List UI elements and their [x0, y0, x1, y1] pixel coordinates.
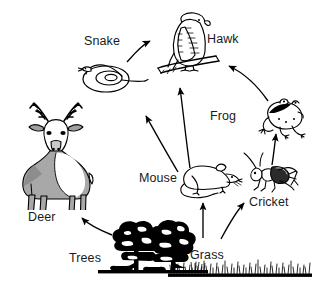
label-trees: Trees [69, 252, 101, 265]
arrow-grass-to-cricket [221, 203, 244, 239]
deer-icon [10, 95, 102, 210]
label-cricket: Cricket [249, 196, 289, 209]
label-mouse: Mouse [139, 172, 177, 185]
node-mouse[interactable] [178, 160, 244, 202]
cricket-icon [236, 152, 304, 196]
node-cricket[interactable] [236, 152, 304, 196]
arrow-mouse-to-hawk [180, 88, 190, 168]
node-snake[interactable] [78, 52, 150, 98]
node-frog[interactable] [252, 96, 310, 140]
food-web-diagram: Deer Snake [0, 0, 312, 297]
arrow-mouse-to-snake [146, 116, 178, 172]
label-hawk: Hawk [207, 33, 239, 46]
label-frog: Frog [210, 110, 236, 123]
label-snake: Snake [84, 35, 120, 48]
snake-icon [78, 52, 150, 98]
label-deer: Deer [28, 211, 56, 224]
node-deer[interactable] [10, 95, 102, 210]
mouse-icon [178, 160, 244, 202]
frog-icon [252, 96, 310, 140]
label-grass: Grass [190, 249, 224, 262]
